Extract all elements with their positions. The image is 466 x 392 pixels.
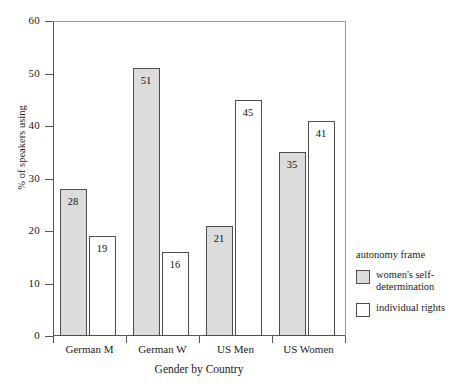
y-axis-title: % of speakers using [16,73,27,223]
x-axis-tick [199,336,200,343]
y-axis-tick-label: 60 [8,15,40,26]
y-axis-tick [45,179,53,180]
bar-value-label: 41 [304,128,338,139]
bar [60,189,87,336]
y-axis-tick [45,21,53,22]
legend-item-label: individual rights [376,302,445,314]
legend-item-label: women's self-determination [376,269,464,293]
bar-value-label: 45 [231,107,265,118]
bar-value-label: 19 [85,243,119,254]
x-axis-category-label: US Women [264,343,354,356]
bar-value-label: 21 [202,233,236,244]
y-axis-tick [45,336,53,337]
x-axis-title: Gender by Country [53,363,345,375]
bar [133,68,160,336]
x-axis-tick [345,336,346,343]
y-axis-tick-label: 10 [8,278,40,289]
y-axis-tick [45,284,53,285]
plot-top-border [53,21,346,22]
y-axis-tick-label: 0 [8,330,40,341]
y-axis-tick-label: 40 [8,120,40,131]
y-axis-tick [45,126,53,127]
legend-item[interactable]: individual rights [356,302,464,317]
plot-right-border [345,21,346,337]
bar [279,152,306,336]
y-axis-tick [45,74,53,75]
legend-item[interactable]: women's self-determination [356,269,464,293]
y-axis-tick-label: 30 [8,173,40,184]
x-axis-tick [272,336,273,343]
bar-value-label: 28 [56,196,90,207]
y-axis-tick-label: 50 [8,68,40,79]
legend-entries: women's self-determinationindividual rig… [356,269,464,317]
legend-swatch-icon [356,303,370,317]
legend-swatch-icon [356,270,370,284]
legend: autonomy frame women's self-determinatio… [356,249,464,326]
legend-title: autonomy frame [356,249,464,261]
bar-value-label: 35 [275,159,309,170]
bar-chart: % of speakers using 0102030405060 German… [0,0,466,392]
y-axis-tick [45,231,53,232]
bar-value-label: 51 [129,75,163,86]
bar [308,121,335,336]
y-axis-tick-label: 20 [8,225,40,236]
x-axis-tick [53,336,54,343]
x-axis-tick [126,336,127,343]
bar [235,100,262,336]
bar-value-label: 16 [158,259,192,270]
